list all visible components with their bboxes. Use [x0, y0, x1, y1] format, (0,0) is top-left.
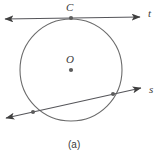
label-line-s: s [149, 84, 153, 95]
label-center-o: O [66, 54, 74, 65]
secant-line-s [6, 88, 141, 118]
tangent-point-c-marker [69, 16, 73, 20]
center-point-o-marker [69, 68, 73, 72]
label-line-t: t [148, 8, 151, 19]
figure-caption: (a) [68, 140, 80, 150]
geometry-figure-panel: C O t s (a) [0, 0, 162, 163]
secant-intersection-right-marker [111, 92, 115, 96]
secant-intersection-left-marker [31, 110, 35, 114]
geometry-diagram-canvas [0, 0, 162, 163]
label-tangent-point-c: C [66, 2, 73, 13]
